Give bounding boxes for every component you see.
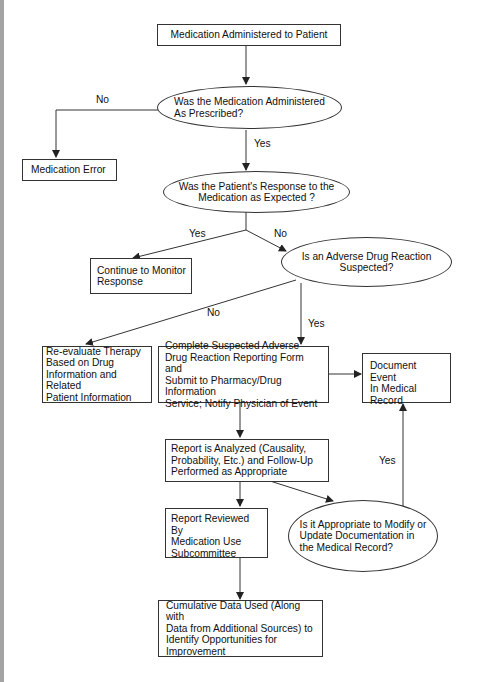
node-reevaluate-therapy: Re-evaluate Therapy Based on Drug Inform… — [42, 346, 152, 403]
edge-label-response-yes: Yes — [189, 228, 206, 239]
edge-label-adr-yes: Yes — [308, 318, 325, 329]
node-text: Medication Administered to Patient — [171, 29, 328, 41]
edge-label-as-prescribed-no: No — [96, 94, 109, 105]
node-report-analyzed: Report is Analyzed (Causality, Probabili… — [165, 439, 329, 482]
node-text: Report Reviewed By Medication Use Subcom… — [171, 513, 249, 559]
node-report-reviewed: Report Reviewed By Medication Use Subcom… — [165, 508, 268, 558]
node-text: Report is Analyzed (Causality, Probabili… — [171, 443, 313, 478]
decision-adr-suspected: Is an Adverse Drug Reaction Suspected? — [281, 237, 452, 287]
arrow-report-analyzed-to-q-modify — [270, 481, 333, 501]
node-complete-adr-report: Complete Suspected Adverse Drug Reaction… — [158, 346, 329, 403]
arrow-q-as-prescribed-no-to-medication-error — [56, 110, 158, 157]
node-text: Continue to Monitor Response — [97, 265, 186, 288]
node-text: Document Event In Medical Record — [370, 360, 416, 406]
node-text: Complete Suspected Adverse Drug Reaction… — [165, 340, 323, 409]
decision-response-as-expected: Was the Patient's Response to the Medica… — [163, 171, 350, 213]
node-medication-administered: Medication Administered to Patient — [157, 24, 341, 46]
node-text: Medication Error — [31, 164, 106, 176]
node-document-event: Document Event In Medical Record — [362, 353, 451, 403]
edge-label-modify-yes: Yes — [379, 455, 396, 466]
node-text: Is an Adverse Drug Reaction Suspected? — [302, 251, 432, 274]
node-continue-to-monitor: Continue to Monitor Response — [90, 258, 192, 294]
node-text: Was the Patient's Response to the Medica… — [179, 181, 335, 204]
decision-medication-as-prescribed: Was the Medication Administered As Presc… — [157, 86, 342, 129]
edge-label-adr-no: No — [207, 307, 220, 318]
decision-modify-documentation: Is it Appropriate to Modify or Update Do… — [288, 500, 438, 572]
edge-label-response-no: No — [274, 228, 287, 239]
node-text: Cumulative Data Used (Along with Data fr… — [166, 600, 317, 658]
node-medication-error: Medication Error — [22, 159, 117, 181]
node-text: Was the Medication Administered As Presc… — [174, 96, 325, 119]
node-cumulative-data: Cumulative Data Used (Along with Data fr… — [158, 600, 323, 657]
node-text: Is it Appropriate to Modify or Update Do… — [300, 519, 427, 554]
node-text: Re-evaluate Therapy Based on Drug Inform… — [46, 346, 146, 404]
edge-label-as-prescribed-yes: Yes — [254, 138, 271, 149]
